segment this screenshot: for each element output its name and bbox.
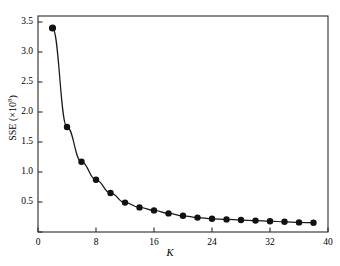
y-axis-title-base: SSE (×10 [7,102,18,141]
data-point [209,216,215,222]
data-point [64,124,70,130]
data-point [107,190,113,196]
y-axis-title-exponent: 8 [6,99,14,103]
data-point [78,159,84,165]
data-point [281,219,287,225]
y-tick-label: 3.0 [0,47,33,57]
chart-canvas [0,0,340,266]
data-point [194,214,200,220]
data-point [122,199,128,205]
x-tick-label: 8 [76,238,116,248]
y-tick-label: 0.5 [0,197,33,207]
data-point [267,218,273,224]
y-axis-title-close: ) [7,95,18,98]
figure: 0.51.01.52.02.53.03.5 0816243240 K SSE (… [0,0,340,266]
data-point [223,216,229,222]
data-point [252,217,258,223]
data-point [165,210,171,216]
data-point [238,217,244,223]
data-point [136,204,142,210]
x-tick-label: 32 [250,238,290,248]
data-point [180,213,186,219]
x-axis-title: K [0,248,340,259]
data-point [296,219,302,225]
y-axis-title: SSE (×108) [8,58,18,178]
x-tick-label: 40 [308,238,340,248]
plot-frame [38,16,328,232]
axes-frame [38,16,328,232]
data-point [93,177,99,183]
data-point [310,220,316,226]
x-tick-label: 24 [192,238,232,248]
data-point [49,24,56,31]
data-point [151,207,157,213]
x-tick-label: 0 [18,238,58,248]
y-tick-label: 3.5 [0,17,33,27]
